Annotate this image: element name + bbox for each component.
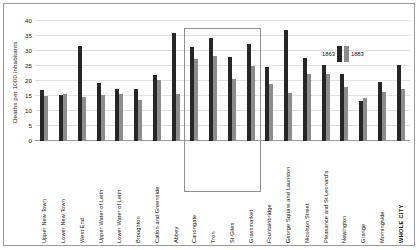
x-label-cell: Canongate <box>185 143 204 243</box>
bar-1883-18 <box>382 92 386 141</box>
y-tick-label-25: 25 <box>25 62 32 69</box>
y-tick-label-15: 15 <box>25 92 32 99</box>
bar-group <box>391 21 410 141</box>
legend-label-series-0: 1863 <box>322 51 335 57</box>
bar-1883-11 <box>251 66 255 141</box>
bar-1883-4 <box>119 94 123 141</box>
x-label-cell: Nicolson Street <box>298 143 317 243</box>
x-label-cell: Newington <box>335 143 354 243</box>
bar-group <box>335 21 354 141</box>
bar-group <box>260 21 279 141</box>
x-label-cell: Lower Water of Leith <box>110 143 129 243</box>
bar-group <box>110 21 129 141</box>
x-label-cell: Broughton <box>129 143 148 243</box>
bar-1883-9 <box>213 56 217 141</box>
bar-1883-1 <box>63 94 67 141</box>
bar-1883-12 <box>269 84 273 141</box>
bar-group <box>166 21 185 141</box>
x-label-cell: Pleasance and St Leonard's <box>316 143 335 243</box>
x-label-cell: George Square and Lauriston <box>279 143 298 243</box>
bar-group <box>241 21 260 141</box>
bar-group <box>54 21 73 141</box>
bar-group <box>204 21 223 141</box>
bar-1883-8 <box>194 59 198 141</box>
x-label-cell: West End <box>73 143 92 243</box>
bar-group <box>35 21 54 141</box>
bar-1883-13 <box>288 93 292 141</box>
bar-1883-14 <box>307 74 311 141</box>
plot-area: 0510152025303540 <box>35 21 410 141</box>
x-axis-label-11: Grassmarket <box>248 145 254 243</box>
x-label-cell: Calton and Greenside <box>148 143 167 243</box>
bar-group <box>354 21 373 141</box>
bar-group <box>373 21 392 141</box>
x-axis-label-8: Canongate <box>191 145 197 243</box>
x-axis-label-18: Morningside <box>379 145 385 243</box>
x-label-cell: Upper New Town <box>35 143 54 243</box>
bar-1883-0 <box>44 96 48 141</box>
x-axis-label-14: Nicolson Street <box>304 145 310 243</box>
x-label-cell: Lower New Town <box>54 143 73 243</box>
y-tick-label-30: 30 <box>25 47 32 54</box>
x-axis-label-6: Calton and Greenside <box>154 145 160 243</box>
bar-group <box>279 21 298 141</box>
x-axis-label-4: Lower Water of Leith <box>116 145 122 243</box>
bar-1883-7 <box>176 94 180 141</box>
x-label-cell: Morningside <box>373 143 392 243</box>
bar-1883-15 <box>326 74 330 141</box>
x-axis-label-16: Newington <box>341 145 347 243</box>
x-label-cell: Grange <box>354 143 373 243</box>
x-axis-label-10: St Giles <box>229 145 235 243</box>
bar-1883-6 <box>157 80 161 141</box>
bar-1883-5 <box>138 100 142 141</box>
x-axis-label-5: Broughton <box>135 145 141 243</box>
y-tick-label-10: 10 <box>25 107 32 114</box>
bar-1883-19 <box>401 89 405 141</box>
bar-group <box>73 21 92 141</box>
bar-1883-2 <box>82 97 86 141</box>
bar-group <box>91 21 110 141</box>
y-tick-label-40: 40 <box>25 17 32 24</box>
bar-group <box>223 21 242 141</box>
bar-group <box>316 21 335 141</box>
y-tick-label-20: 20 <box>25 77 32 84</box>
bar-group <box>148 21 167 141</box>
bar-1883-16 <box>344 87 348 141</box>
bar-1883-10 <box>232 79 236 141</box>
x-label-cell: St Giles <box>223 143 242 243</box>
x-label-cell: Grassmarket <box>241 143 260 243</box>
x-label-cell: WHOLE CITY <box>391 143 410 243</box>
x-label-cell: Tron <box>204 143 223 243</box>
bar-series-container <box>35 21 410 141</box>
bar-1883-17 <box>363 98 367 141</box>
x-label-cell: Abbey <box>166 143 185 243</box>
bar-group <box>185 21 204 141</box>
x-axis-label-9: Tron <box>210 145 216 243</box>
legend-swatch-series-0 <box>337 46 342 62</box>
legend-swatch-series-1 <box>344 46 349 62</box>
x-axis-label-7: Abbey <box>173 145 179 243</box>
x-axis-label-3: Upper Water of Leith <box>98 145 104 243</box>
bar-group <box>298 21 317 141</box>
chart-frame: Deaths per 1000 inhabitants 051015202530… <box>3 3 415 246</box>
y-tick-label-0: 0 <box>29 137 32 144</box>
x-label-cell: Upper Water of Leith <box>91 143 110 243</box>
x-axis-label-17: Grange <box>360 145 366 243</box>
chart-legend: 1863 1883 <box>322 46 364 62</box>
bar-group <box>129 21 148 141</box>
x-axis-label-12: Fountainbridge <box>266 145 272 243</box>
legend-label-series-1: 1883 <box>351 51 364 57</box>
x-axis-label-1: Lower New Town <box>60 145 66 243</box>
bar-1883-3 <box>101 95 105 141</box>
x-axis-label-0: Upper New Town <box>41 145 47 243</box>
y-axis-title: Deaths per 1000 inhabitants <box>8 22 20 142</box>
x-axis-label-19: WHOLE CITY <box>398 145 404 243</box>
y-tick-label-35: 35 <box>25 32 32 39</box>
x-axis-label-13: George Square and Lauriston <box>285 145 291 243</box>
x-axis-labels: Upper New TownLower New TownWest EndUppe… <box>35 143 410 243</box>
x-axis-label-2: West End <box>79 145 85 243</box>
x-label-cell: Fountainbridge <box>260 143 279 243</box>
y-tick-label-5: 5 <box>29 122 32 129</box>
x-axis-label-15: Pleasance and St Leonard's <box>323 145 329 243</box>
